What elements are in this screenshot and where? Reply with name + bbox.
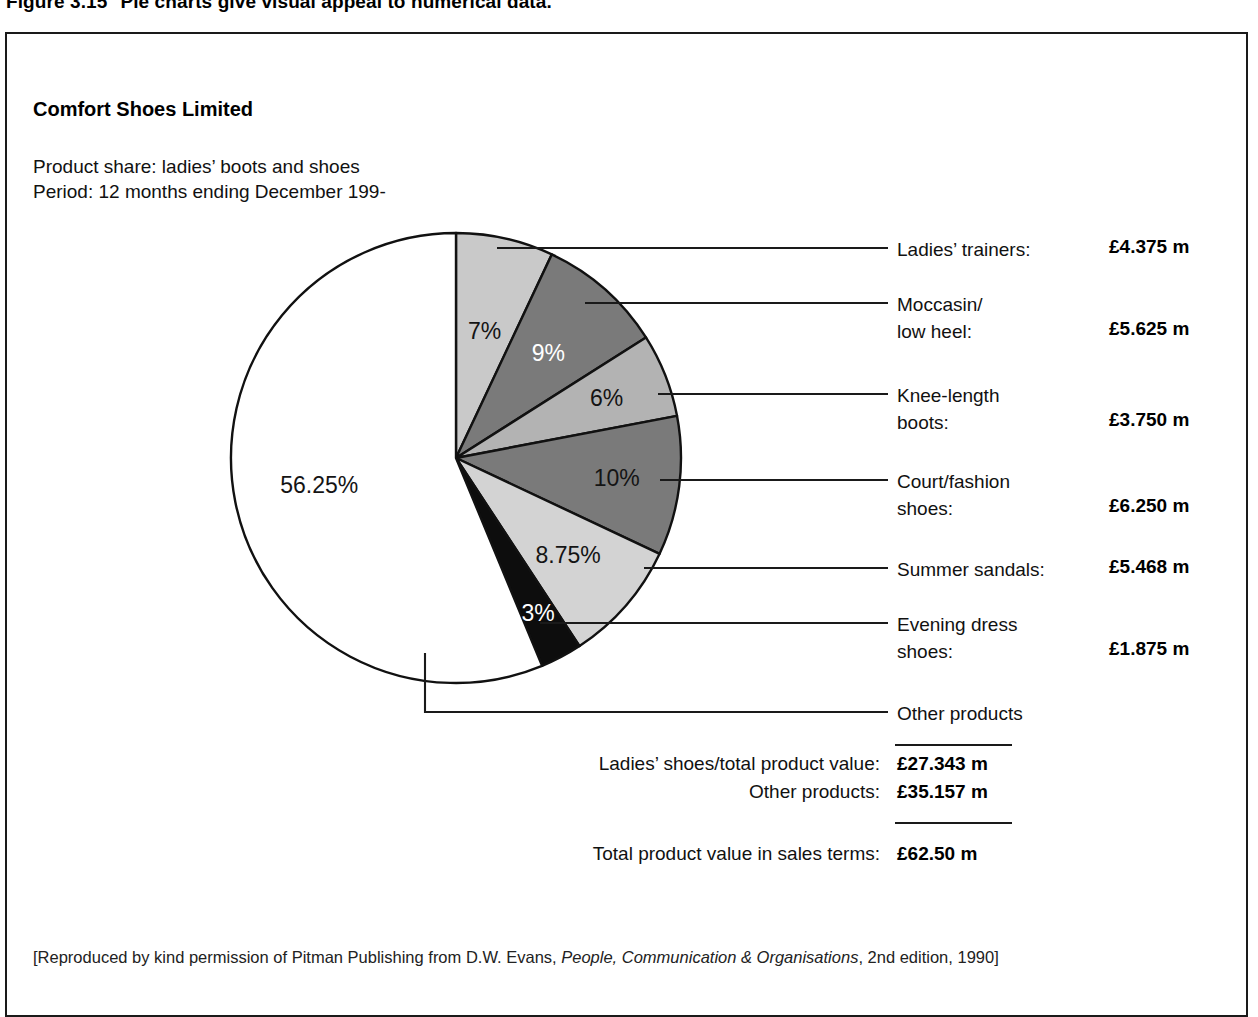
- legend-label-line1: Other products: [897, 703, 1023, 724]
- legend-label-line1: Ladies’ trainers:: [897, 239, 1030, 260]
- legend-label: Other products: [897, 700, 1023, 727]
- legend-value: £6.250 m: [1109, 495, 1189, 517]
- pie-slice-label: 7%: [468, 318, 501, 344]
- pie-slice-label: 9%: [532, 340, 565, 366]
- total-label: Other products:: [749, 781, 880, 803]
- legend-label-line2: boots:: [897, 409, 999, 436]
- legend-value: £1.875 m: [1109, 638, 1189, 660]
- legend-label-line1: Summer sandals:: [897, 559, 1045, 580]
- legend-label-line1: Evening dress: [897, 614, 1017, 635]
- legend-label-line2: shoes:: [897, 638, 1017, 665]
- legend-label-line2: low heel:: [897, 318, 983, 345]
- total-row-other-products: Other products: £35.157 m: [560, 781, 1220, 809]
- legend-label-line1: Knee-length: [897, 385, 999, 406]
- pie-slices: [231, 233, 681, 683]
- legend-label-line2: shoes:: [897, 495, 1010, 522]
- legend-label: Knee-length boots:: [897, 382, 999, 436]
- total-label: Ladies’ shoes/total product value:: [599, 753, 880, 775]
- legend-value: £5.625 m: [1109, 318, 1189, 340]
- legend-label-line1: Moccasin/: [897, 294, 983, 315]
- total-value: £62.50 m: [897, 843, 977, 865]
- pie-slice-label: 6%: [590, 385, 623, 411]
- total-row-grand-total: Total product value in sales terms: £62.…: [560, 843, 1220, 871]
- legend-label: Ladies’ trainers:: [897, 236, 1030, 263]
- pie-slice-label: 56.25%: [280, 472, 358, 498]
- source-work-title: People, Communication & Organisations: [561, 948, 858, 966]
- legend-label-line1: Court/fashion: [897, 471, 1010, 492]
- legend-value: £3.750 m: [1109, 409, 1189, 431]
- legend-label: Moccasin/ low heel:: [897, 291, 983, 345]
- legend-label: Court/fashion shoes:: [897, 468, 1010, 522]
- totals-rule-top: [895, 744, 1012, 746]
- legend-value: £5.468 m: [1109, 556, 1189, 578]
- legend-value: £4.375 m: [1109, 236, 1189, 258]
- legend-label: Summer sandals:: [897, 556, 1045, 583]
- source-credit-prefix: [Reproduced by kind permission of Pitman…: [33, 948, 561, 966]
- source-credit-suffix: , 2nd edition, 1990]: [858, 948, 998, 966]
- legend-label: Evening dress shoes:: [897, 611, 1017, 665]
- source-credit: [Reproduced by kind permission of Pitman…: [33, 948, 999, 967]
- pie-slice-label: 8.75%: [536, 542, 601, 568]
- total-value: £35.157 m: [897, 781, 988, 803]
- total-value: £27.343 m: [897, 753, 988, 775]
- pie-slice-label: 10%: [594, 465, 640, 491]
- total-row-ladies-shoes: Ladies’ shoes/total product value: £27.3…: [560, 753, 1220, 781]
- total-label: Total product value in sales terms:: [593, 843, 880, 865]
- totals-rule-bottom: [895, 822, 1012, 824]
